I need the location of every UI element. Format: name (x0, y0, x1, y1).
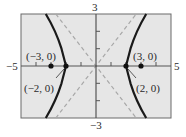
point-pos3-label: (3, 0) (133, 50, 157, 63)
x-min-label: −5 (6, 60, 18, 72)
point-neg3-label: (−3, 0) (26, 50, 56, 63)
point-neg3 (48, 63, 53, 68)
point-pos3 (138, 63, 143, 68)
point-pos2-label: (2, 0) (136, 82, 160, 95)
point-neg2-label: (−2, 0) (24, 82, 54, 95)
y-max-label: 3 (92, 1, 98, 13)
point-neg2 (63, 63, 68, 68)
x-max-label: 5 (174, 60, 180, 72)
point-pos2 (123, 63, 128, 68)
y-min-label: −3 (90, 119, 102, 131)
hyperbola-chart: −5 5 3 −3 (−3, 0) (−2, 0) (2, 0) (3, 0) (0, 0, 186, 137)
